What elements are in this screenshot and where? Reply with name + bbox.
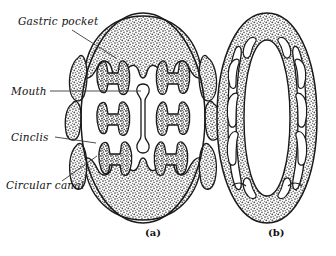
gastric-pocket-b: [227, 132, 238, 166]
anatomy-figure: [0, 0, 336, 256]
cinclis-band: [199, 55, 217, 100]
label-gastric-pocket: Gastric pocket: [18, 15, 98, 27]
label-cinclis: Cinclis: [11, 131, 49, 143]
label-circular-canal: Circular canal: [6, 179, 84, 191]
cinclis-band: [69, 55, 87, 100]
mesentery-h: [97, 102, 130, 135]
gastric-pocket-b: [227, 93, 238, 127]
caption-a: (a): [145, 227, 161, 238]
label-mouth: Mouth: [11, 85, 47, 97]
gastric-pocket-b: [296, 93, 307, 127]
caption-b: (b): [268, 227, 284, 238]
mouth-cavity: [137, 84, 150, 153]
cinclis-band: [65, 101, 81, 140]
cinclis-left-group: [65, 55, 87, 189]
mesentery-h: [156, 102, 189, 135]
specimen-b-group: [217, 13, 317, 223]
figure-page: Gastric pocket Mouth Cinclis Circular ca…: [0, 0, 336, 256]
central-cavity-b: [244, 40, 290, 196]
gastric-pocket-b: [296, 132, 307, 166]
specimen-a-group: [65, 13, 221, 223]
